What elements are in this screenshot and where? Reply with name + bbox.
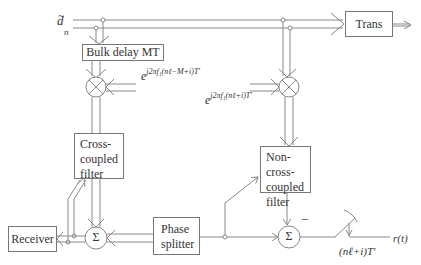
right-exponent-power: j2πf₁(nℓ+i)T' (210, 91, 252, 100)
input-subscript: n (64, 25, 69, 39)
bulk-delay-label: Bulk delay MT (86, 45, 159, 60)
left-mixer (86, 77, 106, 97)
bulk-to-mixer-arrow (86, 60, 106, 78)
bulk-delay-taps (89, 18, 109, 44)
feedback-to-cross-filter (66, 178, 86, 244)
receiver-block: Receiver (8, 226, 57, 252)
input-bus (73, 13, 344, 35)
left-mixer-exp-input (106, 79, 136, 95)
non-cross-coupled-filter-block: Non-cross- coupled filter (260, 146, 311, 193)
right-mixer-exponent: ej2πf₁(nℓ+i)T' (205, 90, 252, 108)
mixer-to-noncross-filter (280, 97, 298, 146)
right-summer-symbol: Σ (282, 229, 296, 244)
mixer-to-cross-filter (92, 97, 100, 133)
cross-coupled-filter-block: Cross- coupled filter (74, 133, 124, 179)
left-mixer-exponent: ej2πf₁(nℓ−M+i)T' (141, 66, 200, 84)
input-tilde: ~ (58, 8, 64, 22)
right-summer-minus-sign: − (301, 213, 308, 227)
sampling-time-label: (nℓ+i)T' (339, 244, 375, 258)
splitter-to-sigma-arrow (107, 230, 153, 246)
right-mixer-taps (279, 18, 296, 77)
right-mixer-exp-input (250, 79, 279, 95)
cross-filter-to-sigma (88, 178, 104, 227)
sigma-to-receiver-arrow (57, 232, 85, 246)
sampler-switch (300, 210, 390, 237)
receiver-label: Receiver (11, 232, 54, 247)
input-signal-label: ~ d (57, 14, 64, 28)
right-mixer (279, 77, 299, 97)
trans-label: Trans (356, 17, 383, 32)
output-signal-label: r(t) (393, 231, 408, 245)
phase-splitter-block: Phase splitter (153, 217, 200, 255)
left-summer-symbol: Σ (89, 230, 103, 245)
bulk-delay-block: Bulk delay MT (82, 44, 164, 61)
block-diagram (0, 0, 421, 265)
trans-output-arrow (393, 21, 411, 29)
left-exponent-power: j2πf₁(nℓ−M+i)T' (146, 67, 200, 76)
trans-block: Trans (345, 11, 393, 37)
